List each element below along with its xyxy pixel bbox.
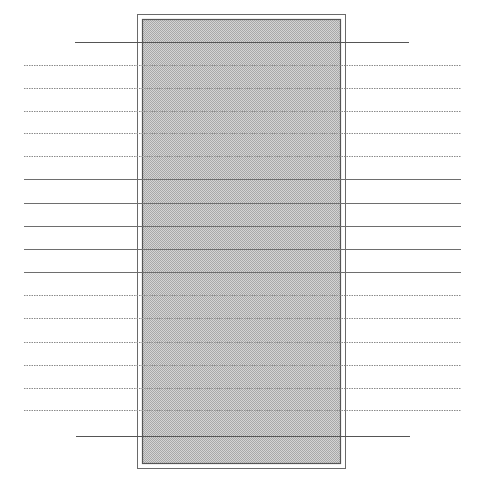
inner-shaded-panel [143, 20, 341, 464]
diagram-shapes [138, 15, 346, 469]
diagram-canvas [0, 0, 485, 498]
